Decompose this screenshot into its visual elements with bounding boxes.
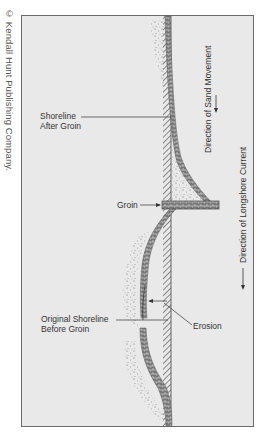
label-groin: Groin [117,200,138,210]
label-longshore-current: Direction of Longshore Current [238,147,248,263]
label-erosion: Erosion [193,321,222,331]
label-sand-movement: Direction of Sand Movement [203,46,213,153]
groin-diagram-art [0,0,269,442]
label-original-shoreline: Original Shoreline Before Groin [41,314,109,334]
groin-structure [162,201,219,209]
label-shoreline-after: Shoreline After Groin [40,111,81,131]
